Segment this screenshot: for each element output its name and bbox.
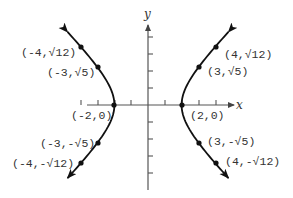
label-neg4-negsqrt12: (-4,-√12) <box>12 157 74 170</box>
point-4-sqrt12 <box>213 44 218 49</box>
point-neg4-sqrt12 <box>78 44 83 49</box>
point-3-sqrt5 <box>196 64 201 69</box>
y-axis: y <box>143 7 153 190</box>
point-2-0 <box>179 102 184 107</box>
point-neg2-0 <box>111 102 116 107</box>
y-axis-label: y <box>143 7 151 21</box>
label-3-sqrt5: (3,√5) <box>207 65 248 78</box>
label-2-0: (2,0) <box>190 109 225 122</box>
label-neg3-negsqrt5: (-3,-√5) <box>40 137 95 150</box>
label-3-negsqrt5: (3,-√5) <box>207 135 255 148</box>
hyperbola-diagram: x y (-4,√12) <box>0 0 293 198</box>
point-4-negsqrt12 <box>213 160 218 165</box>
point-neg3-negsqrt5 <box>95 140 100 145</box>
point-neg3-sqrt5 <box>95 64 100 69</box>
x-axis-label: x <box>236 98 243 112</box>
point-3-negsqrt5 <box>196 140 201 145</box>
label-neg4-sqrt12: (-4,√12) <box>21 46 76 59</box>
label-neg2-0: (-2,0) <box>71 109 112 122</box>
point-neg4-negsqrt12 <box>78 160 83 165</box>
label-4-sqrt12: (4,√12) <box>224 48 272 61</box>
label-4-negsqrt12: (4,-√12) <box>225 155 280 168</box>
label-neg3-sqrt5: (-3,√5) <box>47 66 95 79</box>
